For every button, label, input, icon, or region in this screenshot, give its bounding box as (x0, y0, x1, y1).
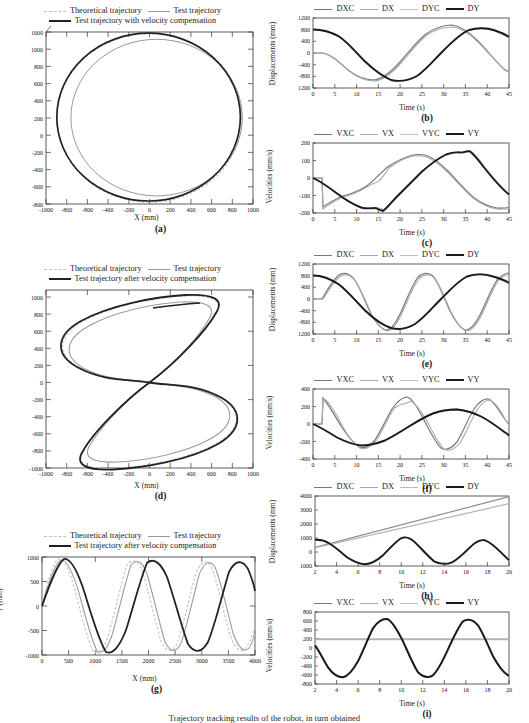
trace-dxc (313, 273, 509, 330)
svg-text:5: 5 (333, 462, 336, 468)
legend-item-vx: VX (360, 375, 394, 385)
svg-text:-200: -200 (123, 471, 134, 477)
panel-a-letter: (a) (0, 223, 293, 234)
panel-b-ylabel: Displacements (mm) (268, 22, 277, 85)
legend-swatch-compensated (49, 20, 71, 22)
svg-text:600: 600 (207, 207, 216, 213)
svg-text:4000: 4000 (300, 493, 312, 499)
legend-label-dyc: DYC (422, 250, 440, 260)
svg-text:-400: -400 (301, 663, 312, 669)
legend-swatch-dyc (400, 9, 418, 10)
svg-text:10: 10 (398, 687, 404, 693)
svg-text:3500: 3500 (222, 658, 234, 664)
legend-label-vxc: VXC (336, 129, 354, 139)
legend-item-test: Test trajectory (148, 6, 222, 16)
svg-text:1000: 1000 (247, 207, 259, 213)
panel-i-ylabel: Velocities (mm/s) (265, 619, 274, 673)
figure-caption: Trajectory tracking results of the robot… (0, 713, 529, 723)
svg-text:-800: -800 (299, 73, 310, 79)
panel-i-legend: VXC VX VYC VY (265, 596, 529, 608)
legend-item-vy: VY (446, 598, 480, 608)
svg-text:30: 30 (441, 91, 447, 97)
panel-a: Theoretical trajectory Test trajectory T… (0, 0, 265, 252)
svg-text:0: 0 (36, 604, 39, 610)
svg-text:400: 400 (301, 386, 310, 392)
svg-text:400: 400 (303, 627, 312, 633)
legend-item-dxc: DXC (314, 482, 354, 492)
legend-item-compensated: Test trajectory after velocity compensat… (49, 274, 217, 284)
panel-d: Theoretical trajectory Test trajectory T… (0, 264, 265, 526)
svg-text:20: 20 (397, 337, 403, 343)
panel-c-plot: 200100 0-100-200 0510 152025 303540 45 (265, 139, 529, 229)
svg-text:45: 45 (506, 216, 512, 222)
panel-b-letter: (b) (265, 112, 529, 123)
legend-swatch-dx (360, 9, 378, 10)
svg-text:30: 30 (441, 216, 447, 222)
svg-text:12: 12 (420, 569, 426, 575)
panel-d-letter: (d) (0, 490, 293, 501)
svg-text:30: 30 (441, 337, 447, 343)
legend-swatch-vxc (314, 134, 332, 135)
legend-label-vxc: VXC (336, 598, 354, 608)
legend-swatch-test (148, 11, 170, 12)
panel-d-xlabel: X (mm) (0, 481, 265, 490)
panel-e-plot: 1200800 4000 -400-800 1200 0510 152025 3… (265, 260, 529, 350)
svg-text:8: 8 (378, 569, 381, 575)
panel-a-legend: Theoretical trajectory Test trajectory T… (0, 0, 265, 26)
legend-item-theoretical: Theoretical trajectory (44, 264, 142, 274)
legend-swatch-test (148, 536, 170, 537)
panel-i-xlabel: Time (s) (265, 699, 529, 708)
panel-g-ylabel: Y (mm) (0, 589, 4, 613)
legend-swatch-dyc (400, 255, 418, 256)
svg-text:4000: 4000 (249, 658, 261, 664)
svg-text:-600: -600 (32, 184, 43, 190)
legend-item-vx: VX (360, 598, 394, 608)
legend-label-vyc: VYC (422, 129, 440, 139)
svg-text:-400: -400 (299, 308, 310, 314)
panel-g-plot: 1000500 0-500 -1000 05001000 15002000250… (0, 551, 265, 673)
svg-text:-200: -200 (299, 439, 310, 445)
legend-label-dx: DX (382, 250, 394, 260)
svg-text:40: 40 (484, 462, 490, 468)
panel-h-legend: DXC DX DYC DY (265, 480, 529, 492)
legend-row-2: Test trajectory after velocity compensat… (49, 274, 217, 284)
svg-text:30: 30 (441, 462, 447, 468)
svg-text:-200: -200 (301, 654, 312, 660)
svg-text:-800: -800 (82, 207, 93, 213)
svg-text:200: 200 (301, 404, 310, 410)
svg-text:40: 40 (484, 216, 490, 222)
legend-label-dy: DY (468, 4, 480, 14)
svg-text:25: 25 (419, 216, 425, 222)
panel-d-plot: 1000800 600400 2000 -200-400 -600-800 -1… (0, 284, 265, 480)
legend-item-dyc: DYC (400, 250, 440, 260)
legend-item-theoretical: Theoretical trajectory (44, 531, 142, 541)
legend-label-dyc: DYC (422, 482, 440, 492)
legend-item-vxc: VXC (314, 375, 354, 385)
svg-text:40: 40 (484, 337, 490, 343)
panel-g-letter: (g) (0, 683, 289, 694)
panel-c: VXC VX VYC VY Velocities (mm/s) (265, 127, 529, 247)
legend-label-compensated: Test trajectory after velocity compensat… (75, 274, 217, 284)
svg-text:-800: -800 (61, 207, 72, 213)
legend-label-compensated: Test trajectory with velocity compensati… (75, 16, 216, 26)
svg-text:200: 200 (301, 140, 310, 146)
svg-text:10: 10 (354, 91, 360, 97)
svg-text:3000: 3000 (300, 507, 312, 513)
legend-label-dy: DY (468, 250, 480, 260)
svg-text:15: 15 (375, 91, 381, 97)
svg-text:-200: -200 (123, 207, 134, 213)
legend-label-vy: VY (468, 375, 480, 385)
legend-item-dxc: DXC (314, 4, 354, 14)
svg-text:400: 400 (301, 284, 310, 290)
svg-text:15: 15 (375, 462, 381, 468)
svg-text:600: 600 (303, 618, 312, 624)
svg-text:20: 20 (506, 687, 512, 693)
svg-text:0: 0 (312, 462, 315, 468)
svg-text:45: 45 (506, 462, 512, 468)
legend-row-1: Theoretical trajectory Test trajectory (44, 6, 221, 16)
svg-text:-500: -500 (28, 628, 39, 634)
svg-text:20: 20 (506, 569, 512, 575)
legend-swatch-theoretical (44, 269, 66, 270)
svg-text:1200: 1200 (298, 15, 310, 21)
legend-item-compensated: Test trajectory with velocity compensati… (49, 16, 216, 26)
